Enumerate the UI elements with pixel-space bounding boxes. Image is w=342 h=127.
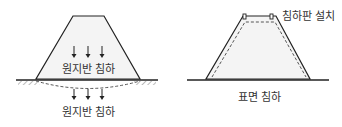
right-embankment: [206, 16, 310, 79]
surface-settlement-label: 표면 침하: [238, 92, 282, 103]
settlement-plate-label: 침하판 설치: [282, 11, 336, 22]
settlement-plate-marker-right: [270, 14, 273, 19]
inner-settlement-label: 원지반 침하: [62, 64, 116, 75]
down-arrow-icon: [100, 89, 105, 100]
down-arrow-icon: [86, 89, 91, 100]
left-settlement-curve: [36, 81, 140, 89]
ground-settlement-label: 원지반 침하: [62, 107, 116, 118]
settlement-plate-marker-left: [243, 14, 246, 19]
down-arrow-icon: [72, 89, 77, 100]
